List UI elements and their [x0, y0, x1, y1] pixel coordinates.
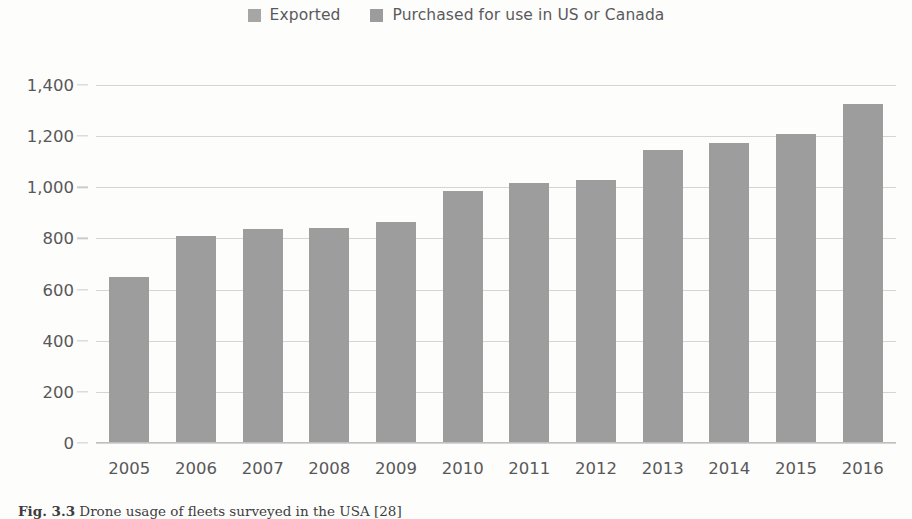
y-axis-tick-label: 200: [43, 382, 75, 401]
x-axis-tick-label: 2014: [696, 459, 762, 478]
bar-segment[interactable]: [176, 236, 216, 443]
y-axis-tick-mark: [77, 391, 88, 392]
x-axis-tick-label: 2012: [563, 459, 629, 478]
legend-item-exported[interactable]: Exported: [248, 6, 341, 24]
x-axis-tick-label: 2009: [363, 459, 429, 478]
x-axis-tick-label: 2008: [296, 459, 362, 478]
y-axis-tick-mark: [77, 238, 88, 239]
bar-segment[interactable]: [776, 134, 816, 443]
bar-group-2008[interactable]: [309, 228, 349, 443]
bar-segment[interactable]: [443, 191, 483, 443]
x-axis-tick-label: 2015: [763, 459, 829, 478]
x-axis-tick-label: 2006: [163, 459, 229, 478]
bar-segment[interactable]: [509, 183, 549, 443]
legend-item-purchased[interactable]: Purchased for use in US or Canada: [370, 6, 664, 24]
caption-text: Drone usage of fleets surveyed in the US…: [79, 503, 401, 519]
bar-segment[interactable]: [643, 150, 683, 443]
bar-group-2011[interactable]: [509, 183, 549, 443]
figure-caption: Fig. 3.3 Drone usage of fleets surveyed …: [18, 503, 658, 519]
bar-segment[interactable]: [576, 180, 616, 443]
x-axis-tick-label: 2007: [230, 459, 296, 478]
y-axis-tick-label: 600: [43, 280, 75, 299]
y-axis-tick-mark: [77, 135, 88, 136]
bar-group-2010[interactable]: [443, 191, 483, 443]
legend-swatch-icon-exported: [248, 9, 261, 22]
x-axis-tick-label: 2013: [630, 459, 696, 478]
bar-segment[interactable]: [843, 104, 883, 443]
y-axis-tick-mark: [77, 84, 88, 85]
x-axis: 2005200620072008200920102011201220132014…: [96, 452, 896, 478]
x-axis-tick-label: 2005: [96, 459, 162, 478]
bar-segment[interactable]: [709, 143, 749, 443]
y-axis-tick-mark: [77, 187, 88, 188]
legend-label-exported: Exported: [270, 6, 341, 24]
y-axis-tick-label: 0: [64, 434, 75, 453]
bar-segment[interactable]: [309, 228, 349, 443]
y-axis-tick-mark: [77, 340, 88, 341]
bar-segment[interactable]: [376, 222, 416, 443]
legend-label-purchased: Purchased for use in US or Canada: [392, 6, 664, 24]
bar-segment[interactable]: [109, 277, 149, 443]
bar-segment[interactable]: [243, 229, 283, 443]
y-axis-tick-label: 800: [43, 229, 75, 248]
legend-swatch-icon-purchased: [370, 9, 383, 22]
bar-group-2013[interactable]: [643, 150, 683, 443]
y-axis-tick-mark: [77, 442, 88, 443]
y-axis-tick-label: 1,400: [27, 76, 74, 95]
bar-group-2006[interactable]: [176, 236, 216, 443]
y-axis-tick-label: 1,200: [27, 127, 74, 146]
y-axis-tick-label: 1,000: [27, 178, 74, 197]
plot-area: [96, 85, 896, 443]
caption-label: Fig. 3.3: [18, 503, 75, 519]
gridline: [96, 443, 896, 444]
x-axis-tick-label: 2011: [496, 459, 562, 478]
bar-group-2012[interactable]: [576, 180, 616, 443]
y-axis-tick-label: 400: [43, 331, 75, 350]
x-axis-tick-label: 2016: [830, 459, 896, 478]
bar-series-container: [96, 85, 896, 443]
bar-group-2015[interactable]: [776, 134, 816, 443]
x-axis-baseline: [96, 442, 896, 443]
y-axis: 02004006008001,0001,2001,400: [0, 85, 88, 443]
bar-group-2014[interactable]: [709, 143, 749, 443]
x-axis-tick-label: 2010: [430, 459, 496, 478]
bar-group-2009[interactable]: [376, 222, 416, 443]
bar-group-2007[interactable]: [243, 229, 283, 443]
bar-group-2016[interactable]: [843, 104, 883, 443]
bar-group-2005[interactable]: [109, 277, 149, 443]
y-axis-tick-mark: [77, 289, 88, 290]
chart-legend: Exported Purchased for use in US or Cana…: [0, 6, 912, 24]
